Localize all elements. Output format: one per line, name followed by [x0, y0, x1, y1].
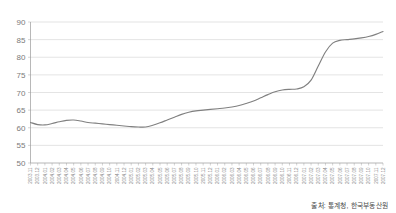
x-axis-tick-label: 2004.09: [100, 167, 105, 184]
y-axis-tick-label: 50: [17, 159, 26, 168]
y-axis-tick-label: 55: [17, 141, 26, 150]
x-axis-tick-label: 2006.08: [266, 167, 271, 184]
x-axis-tick-label: 2006.09: [273, 167, 278, 184]
x-axis-tick-label: 2004.12: [122, 167, 127, 184]
x-axis-tick-label: 2007.09: [359, 167, 364, 184]
x-axis-tick-label: 2006.03: [230, 167, 235, 184]
y-axis-tick-label: 75: [17, 71, 26, 80]
x-axis-tick-label: 2005.12: [208, 167, 213, 184]
gridlines: [28, 22, 383, 163]
x-axis-tick-label: 2004.08: [93, 167, 98, 184]
x-axis-tick-label: 2004.04: [64, 167, 69, 184]
x-axis-tick-label: 2006.06: [251, 167, 256, 184]
source-attribution: 출처: 통계청, 한국부동산원: [311, 200, 388, 210]
y-axis-tick-label: 65: [17, 106, 26, 115]
x-axis-tick-label: 2007.11: [374, 167, 379, 184]
x-axis-tick-label: 2007.04: [323, 167, 328, 184]
x-axis-tick-label: 2005.10: [194, 167, 199, 184]
x-axis-tick-label: 2004.07: [86, 167, 91, 184]
y-axis-tick-label: 90: [17, 18, 26, 27]
x-axis-tick-label: 2007.02: [309, 167, 314, 184]
x-axis-tick-label: 2006.01: [215, 167, 220, 184]
data-series-line: [31, 32, 384, 128]
x-axis-tick-label: 2005.02: [136, 167, 141, 184]
x-axis-tick-label: 2004.06: [79, 167, 84, 184]
x-axis-tick-label: 2005.07: [172, 167, 177, 184]
x-axis-tick-label: 2005.04: [150, 167, 155, 184]
y-axis-tick-label: 70: [17, 89, 26, 98]
x-axis-tick-marks: [31, 163, 384, 166]
x-axis-tick-label: 2005.08: [179, 167, 184, 184]
chart-canvas: 505560657075808590 2003.112003.122004.01…: [0, 0, 396, 213]
x-axis-tick-label: 2007.01: [302, 167, 307, 184]
x-axis-tick-label: 2005.03: [143, 167, 148, 184]
x-axis-tick-label: 2006.07: [258, 167, 263, 184]
x-axis-tick-label: 2004.10: [107, 167, 112, 184]
x-axis-tick-label: 2006.11: [287, 167, 292, 184]
x-axis-tick-label: 2007.03: [316, 167, 321, 184]
x-axis-tick-label: 2006.02: [222, 167, 227, 184]
x-axis-tick-label: 2004.02: [50, 167, 55, 184]
x-axis-tick-label: 2006.12: [294, 167, 299, 184]
x-axis-tick-label: 2007.08: [352, 167, 357, 184]
line-chart: 505560657075808590 2003.112003.122004.01…: [0, 0, 396, 213]
x-axis-tick-label: 2003.11: [28, 167, 33, 184]
x-axis-tick-label: 2006.04: [237, 167, 242, 184]
x-axis-tick-label: 2006.10: [280, 167, 285, 184]
y-axis-tick-label: 80: [17, 53, 26, 62]
x-axis-tick-labels: 2003.112003.122004.012004.022004.032004.…: [28, 167, 386, 184]
x-axis-tick-label: 2004.05: [71, 167, 76, 184]
x-axis-tick-label: 2007.06: [338, 167, 343, 184]
y-axis-tick-labels: 505560657075808590: [17, 18, 26, 168]
x-axis-tick-label: 2005.05: [158, 167, 163, 184]
x-axis-tick-label: 2004.01: [43, 167, 48, 184]
x-axis-tick-label: 2003.12: [35, 167, 40, 184]
x-axis-tick-label: 2007.12: [381, 167, 386, 184]
y-axis-tick-label: 60: [17, 124, 26, 133]
x-axis-tick-label: 2005.09: [186, 167, 191, 184]
x-axis-tick-label: 2006.05: [244, 167, 249, 184]
x-axis-tick-label: 2005.11: [201, 167, 206, 184]
x-axis-tick-label: 2007.05: [330, 167, 335, 184]
x-axis-tick-label: 2004.11: [115, 167, 120, 184]
x-axis-tick-label: 2005.06: [165, 167, 170, 184]
x-axis-tick-label: 2005.01: [129, 167, 134, 184]
y-axis-tick-label: 85: [17, 36, 26, 45]
x-axis-tick-label: 2007.10: [366, 167, 371, 184]
x-axis-tick-label: 2004.03: [57, 167, 62, 184]
x-axis-tick-label: 2007.07: [345, 167, 350, 184]
